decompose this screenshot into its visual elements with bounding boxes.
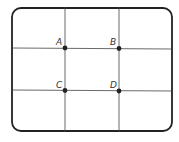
label-a: A	[55, 37, 62, 47]
screen-frame	[12, 8, 172, 131]
horizontal-line-top	[12, 48, 172, 49]
point-labels: A B C D	[55, 37, 117, 90]
horizontal-line-bottom	[12, 90, 172, 91]
label-d: D	[110, 80, 117, 90]
point-a-dot	[63, 46, 68, 51]
label-c: C	[56, 80, 63, 90]
point-b-dot	[117, 46, 122, 51]
label-b: B	[110, 37, 116, 47]
rule-of-thirds-diagram: A B C D	[0, 0, 179, 142]
grid-lines	[12, 7, 172, 132]
point-d-dot	[117, 89, 122, 94]
point-c-dot	[63, 88, 68, 93]
